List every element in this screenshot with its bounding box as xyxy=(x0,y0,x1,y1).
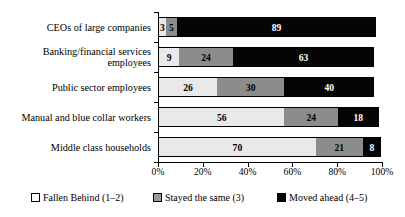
category-label: Middle class households xyxy=(0,142,151,153)
bar-value-label: 3 xyxy=(160,22,165,33)
bar-segment: 30 xyxy=(217,77,284,97)
plot-area: 35899246326304056241870218 xyxy=(158,12,383,162)
bar-value-label: 21 xyxy=(335,142,345,153)
y-axis-tick xyxy=(154,132,158,133)
bar-segment: 24 xyxy=(179,47,233,67)
bar-value-label: 40 xyxy=(324,82,334,93)
y-axis-tick xyxy=(154,72,158,73)
bar-row: 3589 xyxy=(159,17,383,37)
bar-value-label: 8 xyxy=(369,142,374,153)
bar-segment: 40 xyxy=(284,77,374,97)
category-label: Public sector employees xyxy=(0,82,151,93)
bar-value-label: 56 xyxy=(217,112,227,123)
bar-segment: 26 xyxy=(159,77,217,97)
x-tick-label: 80% xyxy=(328,166,346,177)
category-axis-labels: CEOs of large companiesBanking/financial… xyxy=(0,12,155,162)
y-axis-tick xyxy=(154,42,158,43)
bar-value-label: 9 xyxy=(167,52,172,63)
bar-row: 263040 xyxy=(159,77,383,97)
legend-swatch-icon xyxy=(31,193,40,202)
bar-row: 70218 xyxy=(159,137,383,157)
x-axis-tick-labels: 0%20%40%60%80%100% xyxy=(158,166,383,180)
x-tick-label: 0% xyxy=(152,166,165,177)
bar-segment: 89 xyxy=(177,17,376,37)
legend-label: Fallen Behind (1–2) xyxy=(43,192,124,203)
bar-segment: 21 xyxy=(316,137,363,157)
bar-segment: 5 xyxy=(166,17,177,37)
bar-value-label: 89 xyxy=(272,22,282,33)
stacked-bar-chart: CEOs of large companiesBanking/financial… xyxy=(0,0,405,217)
legend-item[interactable]: Stayed the same (3) xyxy=(153,192,244,203)
legend-swatch-icon xyxy=(277,193,286,202)
bar-value-label: 63 xyxy=(299,52,309,63)
y-axis-tick xyxy=(154,12,158,13)
legend-label: Stayed the same (3) xyxy=(165,192,244,203)
bar-segment: 8 xyxy=(363,137,381,157)
bar-row: 562418 xyxy=(159,107,383,127)
bar-segment: 3 xyxy=(159,17,166,37)
chart-legend: Fallen Behind (1–2)Stayed the same (3)Mo… xyxy=(0,192,405,210)
bar-segment: 56 xyxy=(159,107,284,127)
bar-value-label: 30 xyxy=(246,82,256,93)
bar-segment: 24 xyxy=(284,107,338,127)
category-label: Manual and blue collar workers xyxy=(0,112,151,123)
category-label: CEOs of large companies xyxy=(0,22,151,33)
legend-item[interactable]: Fallen Behind (1–2) xyxy=(31,192,124,203)
legend-swatch-icon xyxy=(153,193,162,202)
legend-item[interactable]: Moved ahead (4–5) xyxy=(277,192,367,203)
bar-segment: 63 xyxy=(233,47,374,67)
bar-segment: 70 xyxy=(159,137,316,157)
x-axis-line xyxy=(158,162,383,163)
bar-value-label: 5 xyxy=(169,22,174,33)
bar-value-label: 24 xyxy=(307,112,317,123)
bar-value-label: 18 xyxy=(354,112,364,123)
bar-segment: 18 xyxy=(338,107,378,127)
bar-value-label: 26 xyxy=(183,82,193,93)
x-tick-label: 20% xyxy=(194,166,212,177)
bar-value-label: 24 xyxy=(201,52,211,63)
category-label: Banking/financial services employees xyxy=(0,46,151,69)
legend-label: Moved ahead (4–5) xyxy=(289,192,367,203)
x-tick-label: 40% xyxy=(239,166,257,177)
bar-segment: 9 xyxy=(159,47,179,67)
y-axis-tick xyxy=(154,102,158,103)
x-tick-label: 60% xyxy=(284,166,302,177)
x-tick-label: 100% xyxy=(371,166,393,177)
bar-row: 92463 xyxy=(159,47,383,67)
bar-value-label: 70 xyxy=(233,142,243,153)
